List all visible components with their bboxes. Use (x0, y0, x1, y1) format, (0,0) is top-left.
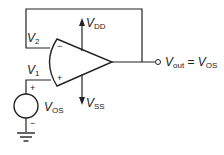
vdd-arrow-icon (79, 18, 85, 26)
label-vdd: VDD (86, 17, 106, 31)
source-plus-sign: + (30, 84, 35, 93)
label-vout: Vout = VOS (165, 56, 217, 70)
label-v2: V2 (27, 32, 39, 46)
opamp-minus-sign: − (57, 42, 62, 51)
opamp-plus-sign: + (57, 74, 62, 83)
label-vos: VOS (44, 101, 64, 115)
source-minus-sign: − (30, 119, 35, 128)
voltage-source-symbol (14, 94, 38, 118)
output-terminal (156, 60, 161, 65)
vss-arrow-icon (79, 97, 85, 105)
ground-icon (17, 133, 35, 141)
label-v1: V1 (27, 64, 39, 78)
label-vss: VSS (86, 97, 105, 111)
